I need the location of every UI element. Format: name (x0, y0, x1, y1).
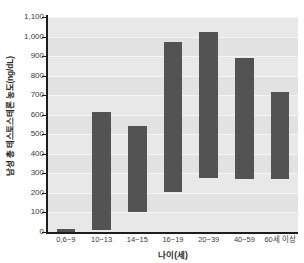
y-tick-mark (42, 76, 46, 77)
y-axis-title-label: 남성 총 테스토스테론 농도(ng/dL) (3, 56, 15, 176)
gridline (48, 37, 298, 38)
plot-band (48, 193, 298, 213)
bar-16~19[interactable] (164, 42, 183, 192)
x-axis-tick-labels: 0,6~910~1314~1516~1920~3940~5960세 이상 (48, 235, 298, 247)
y-tick-mark (42, 212, 46, 213)
x-tick-label: 40~59 (227, 235, 263, 245)
x-tick-label: 60세 이상 (262, 235, 298, 245)
bar-14~15[interactable] (128, 126, 147, 212)
bar-60세 이상[interactable] (271, 92, 290, 179)
x-tick-label: 14~15 (119, 235, 155, 245)
y-tick-mark (42, 173, 46, 174)
bar-20~39[interactable] (199, 32, 218, 179)
bar-40~59[interactable] (235, 58, 254, 179)
y-tick-mark (42, 154, 46, 155)
x-tick-label: 0,6~9 (48, 235, 84, 245)
x-tick-label: 20~39 (191, 235, 227, 245)
y-tick-mark (42, 232, 46, 233)
y-tick-mark (42, 56, 46, 57)
y-tick-label: 1,100 (24, 13, 44, 21)
y-axis-line (46, 15, 48, 234)
testosterone-by-age-chart: 남성 총 테스토스테론 농도(ng/dL) 010020030040050060… (0, 0, 304, 263)
x-axis-title-label: 나이(세) (48, 248, 298, 260)
y-tick-mark (42, 37, 46, 38)
y-tick-mark (42, 95, 46, 96)
y-tick-mark (42, 115, 46, 116)
y-axis-tick-labels: 01002003004005006007008009001,0001,100 (16, 0, 46, 263)
plot-area (48, 17, 298, 232)
y-tick-mark (42, 17, 46, 18)
y-tick-mark (42, 193, 46, 194)
y-tick-mark (42, 134, 46, 135)
gridline (48, 193, 298, 194)
bar-10~13[interactable] (92, 112, 111, 230)
y-tick-label: 1,000 (24, 33, 44, 41)
gridline (48, 212, 298, 213)
x-axis-line (46, 232, 298, 234)
gridline (48, 17, 298, 18)
x-tick-label: 16~19 (155, 235, 191, 245)
x-tick-label: 10~13 (84, 235, 120, 245)
